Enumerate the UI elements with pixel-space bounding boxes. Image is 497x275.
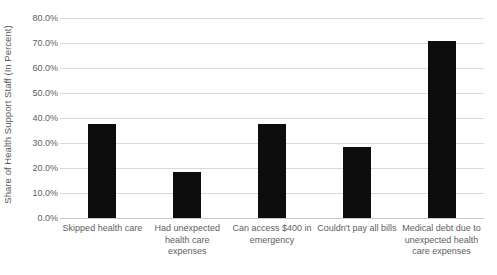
x-axis-category-label: Can access $400 in emergency (230, 223, 314, 246)
y-axis-tick-labels: 0.0%10.0%20.0%30.0%40.0%50.0%60.0%70.0%8… (16, 18, 58, 218)
y-axis-title-text: Share of Health Support Staff (In Percen… (2, 25, 13, 203)
bar (88, 124, 116, 218)
x-axis-category-label: Couldn't pay all bills (315, 223, 399, 235)
bars-group (60, 18, 484, 218)
y-axis-tick-label: 40.0% (16, 113, 58, 123)
x-axis-category-label: Had unexpected health care expenses (145, 223, 229, 258)
y-axis-tick-label: 30.0% (16, 138, 58, 148)
x-axis-category-labels: Skipped health careHad unexpected health… (60, 223, 484, 273)
y-axis-tick-label: 10.0% (16, 188, 58, 198)
y-axis-tick-label: 50.0% (16, 88, 58, 98)
bar (173, 172, 201, 218)
y-axis-tick-label: 60.0% (16, 63, 58, 73)
x-axis-category-label: Skipped health care (60, 223, 144, 235)
y-axis-tick-label: 0.0% (16, 213, 58, 223)
gridline (60, 218, 484, 219)
bar (343, 147, 371, 218)
x-axis-category-label: Medical debt due to unexpected health ca… (400, 223, 484, 258)
y-axis-title: Share of Health Support Staff (In Percen… (0, 0, 14, 228)
bar (258, 124, 286, 218)
y-axis-tick-label: 80.0% (16, 13, 58, 23)
plot-area (60, 18, 484, 218)
y-axis-tick-label: 20.0% (16, 163, 58, 173)
y-axis-tick-label: 70.0% (16, 38, 58, 48)
bar (428, 41, 456, 218)
bar-chart: Share of Health Support Staff (In Percen… (0, 0, 497, 275)
